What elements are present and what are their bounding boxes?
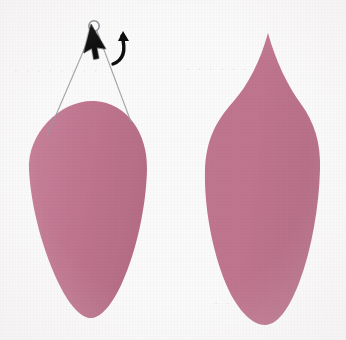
inverted-teardrop-shape[interactable] (29, 101, 147, 318)
illustration-svg (0, 0, 346, 340)
flame-leaf-shape[interactable] (205, 33, 320, 325)
shape-right-group[interactable] (205, 33, 320, 325)
shape-left-group[interactable] (29, 101, 147, 318)
diagram-canvas: · · · · · · · · · · · · · · · · · · · · … (0, 0, 346, 340)
curved-rotate-arrow (113, 31, 129, 64)
